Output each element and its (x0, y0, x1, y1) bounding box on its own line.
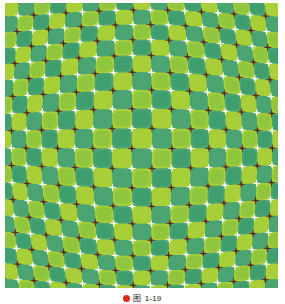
red-dot-icon (123, 295, 130, 302)
figure-caption: 图 1-19 (0, 294, 285, 304)
page-root: 图 1-19 (0, 0, 285, 304)
illusion-figure (5, 3, 278, 288)
caption-number: 1-19 (145, 294, 162, 303)
caption-label: 图 (133, 294, 141, 303)
illusion-canvas (5, 3, 278, 288)
